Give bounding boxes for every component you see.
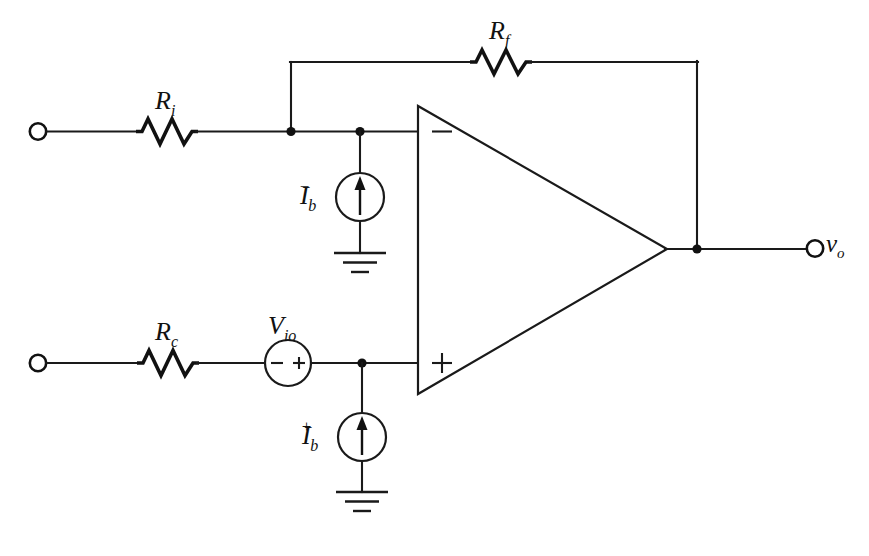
- input-resistor-zigzag: [136, 119, 198, 144]
- output-voltage-label: vo: [826, 231, 845, 256]
- schematic-canvas: Ri Rf Rc Vio I−b I+b vo: [0, 0, 869, 556]
- node-dot-output-junction: [692, 244, 701, 253]
- offset-voltage-source-label: Vio: [268, 313, 296, 339]
- circuit-schematic: [0, 0, 869, 556]
- bias-current-source-inverting-label: I−b: [300, 183, 326, 209]
- output-terminal[interactable]: [807, 240, 823, 256]
- input-resistor: [136, 119, 198, 144]
- feedback-resistor-zigzag: [470, 50, 532, 74]
- compensation-resistor: [137, 351, 199, 376]
- compensation-resistor-label: Rc: [155, 319, 178, 345]
- noninverting-input-terminal[interactable]: [30, 355, 46, 371]
- node-dot-feedback-junction: [286, 127, 295, 136]
- feedback-resistor-label: Rf: [489, 18, 509, 44]
- feedback-resistor: [470, 50, 532, 74]
- inverting-input-terminal[interactable]: [30, 123, 46, 139]
- operational-amplifier[interactable]: [418, 106, 667, 394]
- ground-noninverting: [336, 492, 388, 511]
- compensation-resistor-zigzag: [137, 351, 199, 376]
- input-resistor-label: Ri: [155, 88, 175, 114]
- ground-inverting: [334, 253, 386, 272]
- bias-current-source-noninverting-label: I+b: [302, 423, 328, 449]
